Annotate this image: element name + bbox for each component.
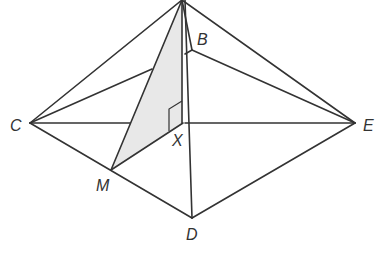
edge-be: [192, 50, 355, 123]
label-x: X: [172, 133, 183, 149]
label-e: E: [363, 118, 374, 134]
label-d: D: [186, 227, 198, 243]
label-c: C: [10, 118, 22, 134]
label-b: B: [197, 32, 208, 48]
edge-de: [192, 123, 355, 218]
label-m: M: [96, 178, 109, 194]
edge-ae: [182, 0, 355, 123]
